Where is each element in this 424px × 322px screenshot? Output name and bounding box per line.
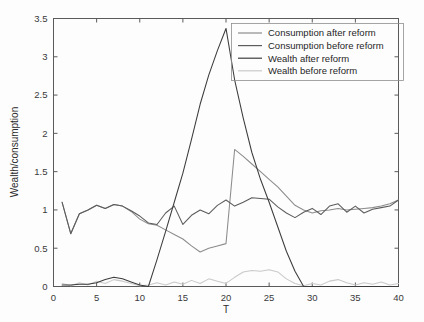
x-tick-label: 20: [221, 292, 232, 303]
y-tick-label: 1.5: [34, 166, 47, 177]
x-tick-label: 0: [51, 292, 56, 303]
legend-label-2: Wealth after reform: [268, 53, 349, 64]
x-tick-label: 35: [350, 292, 361, 303]
y-axis-label: Wealth/consumption: [9, 107, 20, 197]
y-tick-label: 1: [42, 204, 47, 215]
x-axis-label: T: [223, 304, 229, 315]
x-tick-label: 5: [94, 292, 99, 303]
x-tick-label: 40: [393, 292, 404, 303]
y-tick-label: 0: [42, 281, 47, 292]
y-tick-label: 2: [42, 128, 47, 139]
y-tick-label: 3.5: [34, 13, 47, 24]
x-tick-label: 10: [134, 292, 145, 303]
series-line-consumption-after-reform: [62, 149, 398, 252]
legend-label-1: Consumption before reform: [268, 40, 384, 51]
x-tick-label: 15: [178, 292, 189, 303]
x-tick-label: 25: [264, 292, 275, 303]
y-tick-label: 3: [42, 51, 47, 62]
legend: Consumption after reformConsumption befo…: [232, 24, 404, 81]
figure-container: 0510152025303540 00.511.522.533.5 T Weal…: [0, 0, 424, 322]
legend-label-0: Consumption after reform: [268, 27, 376, 38]
y-tick-label: 0.5: [34, 243, 47, 254]
chart-canvas: 0510152025303540 00.511.522.533.5 T Weal…: [0, 0, 424, 322]
x-tick-label: 30: [307, 292, 318, 303]
y-tick-label: 2.5: [34, 89, 47, 100]
legend-label-3: Wealth before reform: [268, 65, 357, 76]
series-line-consumption-before-reform: [62, 198, 398, 234]
